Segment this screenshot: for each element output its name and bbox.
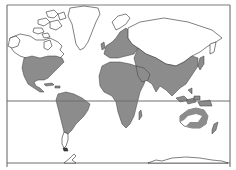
tierra-del-fuego <box>63 148 68 151</box>
caribbean-islands <box>44 83 60 88</box>
scandinavia-north <box>112 14 130 30</box>
range-south-america <box>56 92 90 134</box>
south-america-tip <box>62 132 68 148</box>
kamchatka <box>210 42 216 54</box>
antarctic-peninsula <box>64 154 76 163</box>
british-isles <box>101 42 105 50</box>
world-map <box>0 0 236 170</box>
greenland <box>68 6 100 50</box>
antarctica-coast <box>148 157 228 163</box>
arctic-islands <box>33 10 66 38</box>
alaska <box>8 36 20 48</box>
madagascar <box>139 110 142 120</box>
southeast-asia-islands <box>176 88 212 106</box>
japan <box>198 56 204 70</box>
new-zealand <box>212 122 218 134</box>
